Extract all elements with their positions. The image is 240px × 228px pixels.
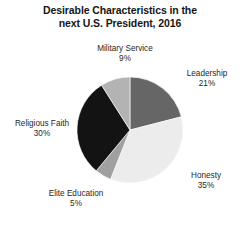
slice-label-leadership-name: Leadership [176, 69, 238, 79]
pie-chart-figure: Desirable Characteristics in the next U.… [0, 0, 240, 228]
slice-label-leadership: Leadership 21% [176, 69, 238, 89]
slice-label-military-service-name: Military Service [82, 44, 168, 54]
slice-label-leadership-value: 21% [176, 79, 238, 89]
pie-slice-group [77, 77, 183, 183]
slice-label-religious-faith-value: 30% [2, 129, 82, 139]
slice-label-military-service-value: 9% [82, 54, 168, 64]
slice-label-honesty: Honesty 35% [176, 171, 236, 191]
slice-label-military-service: Military Service 9% [82, 44, 168, 64]
slice-label-honesty-value: 35% [176, 181, 236, 191]
slice-label-religious-faith: Religious Faith 30% [2, 119, 82, 139]
slice-label-religious-faith-name: Religious Faith [2, 119, 82, 129]
slice-label-elite-education: Elite Education 5% [32, 189, 120, 209]
slice-label-honesty-name: Honesty [176, 171, 236, 181]
slice-label-elite-education-value: 5% [32, 199, 120, 209]
slice-label-elite-education-name: Elite Education [32, 189, 120, 199]
